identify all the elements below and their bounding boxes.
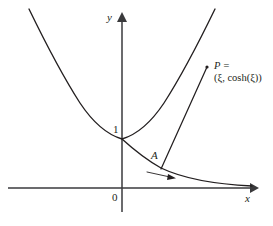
point-A-label: A — [151, 149, 158, 161]
origin-label-zero: 0 — [112, 191, 118, 203]
tractrix-curve — [122, 139, 252, 186]
y-axis-arrowhead — [117, 12, 127, 22]
point-P-dot — [205, 65, 208, 68]
tangent-segment-PA — [161, 67, 207, 169]
point-P-label-line2: (ξ, cosh(ξ)) — [214, 72, 262, 84]
motion-arrow-head — [167, 174, 176, 180]
point-P-label: P = (ξ, cosh(ξ)) — [214, 60, 262, 84]
x-axis-arrowhead — [250, 183, 259, 193]
math-figure-svg — [0, 0, 273, 226]
point-P-label-line1: P = — [214, 60, 262, 72]
y-axis-label: y — [107, 11, 112, 23]
motion-arrow-shaft — [147, 172, 170, 177]
y-tick-label-one: 1 — [113, 123, 119, 135]
x-axis-label: x — [245, 192, 250, 204]
figure-canvas: y x 1 0 A P = (ξ, cosh(ξ)) — [0, 0, 273, 226]
